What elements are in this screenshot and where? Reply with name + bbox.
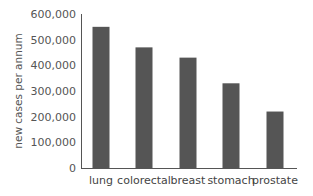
x-category-label-lung: lung [89, 174, 113, 187]
y-axis-tick-labels: 0100,000200,000300,000400,000500,000600,… [31, 8, 77, 175]
bar-chart: 0100,000200,000300,000400,000500,000600,… [0, 0, 313, 196]
y-tick-label: 200,000 [31, 111, 77, 124]
y-tick-label: 300,000 [31, 85, 77, 98]
bar-colorectal [136, 47, 153, 168]
y-axis-label: new cases per annum [12, 33, 24, 148]
bar-prostate [267, 112, 284, 168]
y-tick-label: 400,000 [31, 59, 77, 72]
bar-lung [93, 27, 110, 168]
bar-stomach [223, 83, 240, 168]
x-category-label-prostate: prostate [252, 174, 298, 187]
x-category-label-breast: breast [171, 174, 207, 187]
x-category-label-colorectal: colorectal [117, 174, 171, 187]
x-category-label-stomach: stomach [207, 174, 254, 187]
x-axis-category-labels: lungcolorectalbreaststomachprostate [89, 174, 298, 187]
y-tick-label: 100,000 [31, 136, 77, 149]
bars [93, 27, 284, 168]
y-tick-label: 0 [69, 162, 76, 175]
bar-breast [180, 58, 197, 168]
y-tick-label: 600,000 [31, 8, 77, 21]
y-tick-label: 500,000 [31, 34, 77, 47]
